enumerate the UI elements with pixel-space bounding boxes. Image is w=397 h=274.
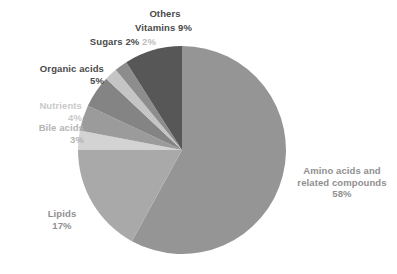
slice-label-vitamins-percent: 2% <box>125 36 139 47</box>
slice-label-bile-acids-name: Bile acids <box>39 122 84 133</box>
slice-label-amino-acids-name-line1: Amino acids and <box>303 165 381 176</box>
slice-label-organic-acids-name: Organic acids <box>40 63 104 74</box>
slice-label-sugars-name: Sugars <box>90 36 123 47</box>
slice-label-vitamins-name: Vitamins <box>135 22 175 33</box>
slice-label-amino-acids-percent: 58% <box>290 188 394 200</box>
slice-label-lipids-name: Lipids <box>48 208 77 219</box>
slice-label-organic-acids: Organic acids 5% <box>8 63 104 86</box>
slice-label-lipids-percent: 17% <box>28 220 96 232</box>
pie-chart: Others Vitamins 9% Sugars 2% 2% Organic … <box>0 0 397 274</box>
slice-label-bile-acids-percent: 3% <box>6 134 84 146</box>
slice-label-sugars: Sugars 2% 2% <box>62 36 156 48</box>
slice-label-amino-acids-name-line2: related compounds <box>290 177 394 189</box>
slice-label-bile-acids: Bile acids 3% <box>6 122 84 145</box>
slice-label-vitamins: Vitamins 9% <box>84 22 192 34</box>
slice-label-nutrients-name: Nutrients <box>39 100 82 111</box>
slice-label-sugars-percent: 2% <box>142 36 156 47</box>
slice-label-organic-acids-percent: 5% <box>8 75 104 87</box>
slice-label-others-percent: 9% <box>178 22 192 33</box>
slice-label-others-name: Others <box>149 8 180 19</box>
pie-slices-group <box>78 46 286 254</box>
slice-label-nutrients: Nutrients 4% <box>8 100 82 123</box>
slice-label-others: Others <box>120 8 210 20</box>
slice-label-lipids: Lipids 17% <box>28 208 96 231</box>
slice-label-amino-acids: Amino acids and related compounds 58% <box>290 165 394 200</box>
